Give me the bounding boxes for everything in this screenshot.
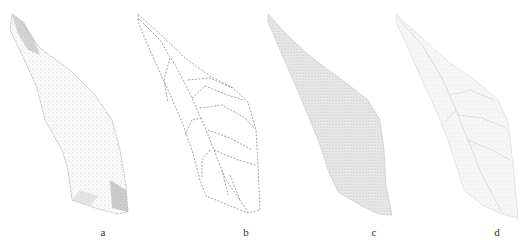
leaf-image-c (260, 0, 400, 247)
panel-c: c (260, 0, 400, 247)
panel-label-b: b (236, 226, 256, 238)
leaf-image-a (0, 0, 130, 247)
panel-b: b (130, 0, 270, 247)
panel-label-d: d (487, 226, 507, 238)
panel-label-c: c (364, 226, 384, 238)
leaf-image-d (390, 0, 529, 247)
panel-a: a (0, 0, 130, 247)
panel-label-a: a (93, 226, 113, 238)
panel-d: d (390, 0, 529, 247)
leaf-outline-b (130, 0, 270, 247)
